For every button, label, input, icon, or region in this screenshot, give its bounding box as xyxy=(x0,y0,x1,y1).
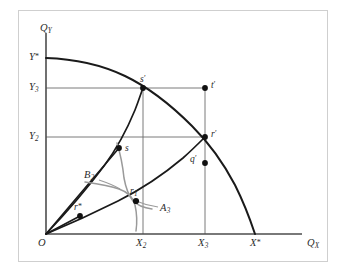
y-tick-label-y3: Y3 xyxy=(29,82,39,93)
annotation-A3-text: A xyxy=(160,202,167,213)
point-label-r-prime-sup: ′ xyxy=(215,129,217,138)
point-label-r-star: r* xyxy=(74,203,82,213)
y-axis-title-subscript: Y xyxy=(48,27,52,35)
x-tick-x3-sub: 3 xyxy=(205,242,209,250)
point-r-star xyxy=(77,213,83,219)
x-tick-x3-text: X xyxy=(198,237,205,248)
ray-origin-to-r-star xyxy=(46,216,80,234)
x-axis-title-text: Q xyxy=(307,237,315,248)
x-tick-origin-text: O xyxy=(38,237,46,248)
y-axis-title: QY xyxy=(40,23,52,34)
point-label-t-prime: t′ xyxy=(211,81,216,91)
point-label-s-prime-sup: ′ xyxy=(144,74,146,83)
point-label-t-prime-sup: ′ xyxy=(214,80,216,89)
x-axis-title: QX xyxy=(307,238,319,249)
x-tick-label-x2: X2 xyxy=(136,238,146,249)
annotation-label-A3: A3 xyxy=(160,203,170,214)
point-q-prime xyxy=(202,160,208,166)
point-s xyxy=(116,145,122,151)
y-tick-label-y2: Y2 xyxy=(29,131,39,142)
data-points-group xyxy=(77,85,208,219)
guide-lines-group xyxy=(46,88,205,234)
chart-canvas xyxy=(0,0,347,278)
point-label-r1-sub: 1 xyxy=(134,190,138,198)
x-tick-label-xstar: X* xyxy=(250,238,261,249)
point-r1 xyxy=(133,198,139,204)
x-tick-x2-sub: 2 xyxy=(143,242,147,250)
x-tick-label-x3: X3 xyxy=(198,238,208,249)
point-label-s: s xyxy=(125,144,129,154)
point-label-q-prime: q′ xyxy=(190,155,197,165)
figure-root: QY QX Y* Y3 Y2 O X2 X3 X* s′ t′ r′ q′ s … xyxy=(0,0,347,278)
point-label-s-text: s xyxy=(125,143,129,153)
x-tick-label-origin: O xyxy=(38,238,46,249)
annotation-B2-sub: 2 xyxy=(91,174,95,182)
y-axis-title-text: Q xyxy=(40,22,48,33)
y-tick-y3-sub: 3 xyxy=(35,86,39,94)
point-label-q-prime-sup: ′ xyxy=(195,154,197,163)
x-tick-x2-text: X xyxy=(136,237,143,248)
point-label-r-prime: r′ xyxy=(211,130,217,140)
point-t-prime xyxy=(202,85,208,91)
y-tick-ystar-sup: * xyxy=(35,52,39,61)
indifference-curve-B2 xyxy=(85,182,137,231)
point-s-prime xyxy=(140,85,146,91)
x-tick-xstar-text: X xyxy=(250,237,257,248)
x-tick-xstar-sup: * xyxy=(257,238,261,247)
annotation-B2-text: B xyxy=(84,169,91,180)
y-tick-label-ystar: Y* xyxy=(29,52,39,63)
y-tick-y2-sub: 2 xyxy=(35,135,39,143)
point-label-r-star-sup: * xyxy=(78,202,82,211)
annotation-A3-sub: 3 xyxy=(167,207,171,215)
ray-origin-to-s xyxy=(46,148,119,234)
x-axis-title-subscript: X xyxy=(315,242,320,250)
point-label-r1: r1 xyxy=(130,187,138,197)
point-label-s-prime: s′ xyxy=(140,75,146,85)
annotation-label-B2: B2 xyxy=(84,170,94,181)
point-r-prime xyxy=(202,134,208,140)
